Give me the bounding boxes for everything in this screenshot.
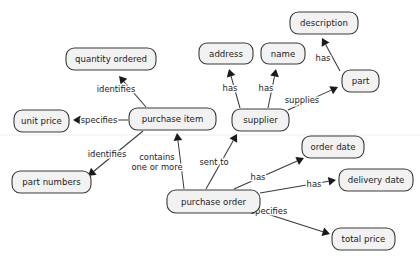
node-delivery_date[interactable]: delivery date (339, 169, 413, 191)
concept-map-canvas: identifiesidentifiesspecifiesspecifiesid… (0, 0, 420, 261)
edge-label: has (307, 179, 322, 189)
node-purchase_item[interactable]: purchase item (129, 108, 216, 130)
node-part_numbers[interactable]: part numbers (12, 171, 91, 193)
edge-label: has (223, 83, 238, 93)
node-label: name (271, 49, 295, 59)
edge-label: supplies (285, 95, 319, 105)
node-address[interactable]: address (199, 43, 253, 64)
node-description[interactable]: description (290, 12, 358, 34)
node-label: unit price (21, 116, 62, 126)
node-unit_price[interactable]: unit price (14, 110, 69, 132)
edge-label: sent to (199, 157, 228, 167)
node-total_price[interactable]: total price (332, 228, 395, 250)
node-label: purchase item (142, 114, 204, 124)
edge-label: specifies (81, 115, 118, 125)
node-label: part numbers (22, 177, 81, 187)
edge-label: identifies (88, 149, 127, 159)
node-supplier[interactable]: supplier (232, 109, 289, 131)
node-purchase_order[interactable]: purchase order (167, 190, 260, 213)
edge-label: identifies (97, 84, 136, 94)
node-order_date[interactable]: order date (302, 136, 364, 158)
node-quantity[interactable]: quantity ordered (66, 48, 156, 70)
node-label: part (352, 76, 370, 86)
node-label: supplier (243, 115, 278, 125)
concept-map-diagram: identifiesidentifiesspecifiesspecifiesid… (0, 0, 420, 261)
node-name[interactable]: name (261, 43, 305, 64)
node-label: quantity ordered (75, 54, 147, 64)
node-label: total price (342, 234, 386, 244)
node-part[interactable]: part (342, 70, 379, 92)
node-label: delivery date (348, 175, 405, 185)
node-label: description (300, 18, 348, 28)
edge-label: has (316, 53, 331, 63)
node-label: order date (310, 142, 355, 152)
node-label: purchase order (181, 197, 247, 207)
edge-label: has (259, 83, 274, 93)
node-label: address (209, 49, 243, 59)
edge-label: has (251, 172, 266, 182)
